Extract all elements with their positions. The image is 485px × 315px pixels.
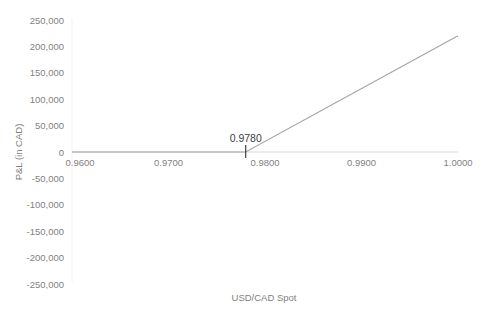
y-tick-label: -200,000 — [26, 252, 64, 263]
y-tick-label: -250,000 — [26, 279, 64, 290]
strike-label: 0.9780 — [230, 132, 262, 144]
y-tick-label: 50,000 — [35, 120, 64, 131]
y-tick-label: 200,000 — [30, 41, 64, 52]
pnl-chart: 250,000200,000150,000100,00050,0000-50,0… — [0, 0, 485, 315]
x-tick-label: 1.0000 — [443, 157, 472, 168]
x-tick-label: 0.9600 — [65, 157, 94, 168]
x-axis-ticks: 0.96000.97000.98000.99001.0000 — [65, 157, 472, 168]
y-tick-label: -50,000 — [32, 173, 64, 184]
y-tick-label: -100,000 — [26, 199, 64, 210]
y-tick-label: 0 — [59, 147, 64, 158]
y-tick-label: -150,000 — [26, 226, 64, 237]
y-axis-ticks: 250,000200,000150,000100,00050,0000-50,0… — [26, 15, 64, 290]
x-axis-title: USD/CAD Spot — [232, 292, 297, 303]
x-tick-label: 0.9900 — [347, 157, 376, 168]
pnl-line — [72, 36, 458, 152]
y-tick-label: 100,000 — [30, 94, 64, 105]
y-tick-label: 150,000 — [30, 67, 64, 78]
y-axis-title: P&L (in CAD) — [13, 124, 24, 181]
x-tick-label: 0.9700 — [154, 157, 183, 168]
y-tick-label: 250,000 — [30, 15, 64, 26]
x-tick-label: 0.9800 — [250, 157, 279, 168]
